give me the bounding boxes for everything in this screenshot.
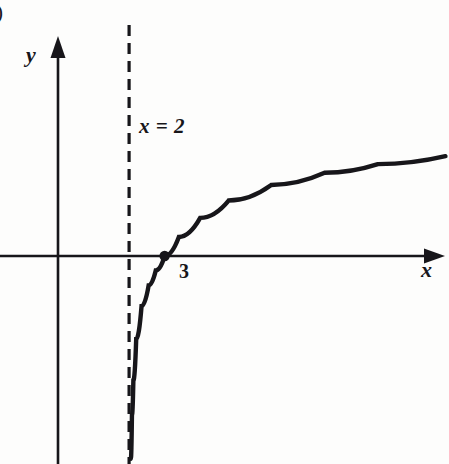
x-intercept-point: [159, 251, 169, 261]
y-axis-label: y: [26, 44, 36, 66]
asymptote-equation-label: x = 2: [139, 116, 185, 137]
figure-tag-label: ): [0, 2, 3, 23]
figure-container: ) y x x = 2 3: [0, 0, 449, 464]
x-intercept-label: 3: [179, 261, 189, 281]
y-axis-arrowhead: [51, 36, 66, 58]
log-curve: [131, 156, 446, 459]
graph-canvas: [0, 0, 449, 464]
x-axis-label: x: [421, 259, 432, 281]
